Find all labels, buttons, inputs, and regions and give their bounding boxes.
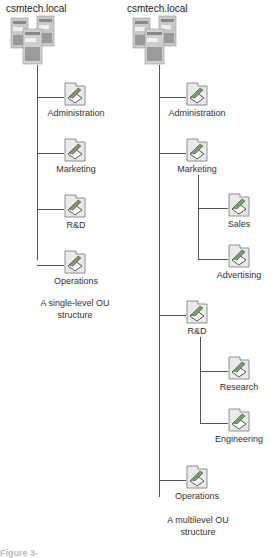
ou-folder-icon [64,138,86,162]
ou-label-operations: Operations [45,276,107,286]
server-icon [132,15,178,65]
caption-line: structure [20,309,130,321]
ou-folder-icon [186,300,208,324]
caption-multilevel: A multilevel OU structure [150,514,246,538]
ou-label-administration: Administration [45,108,107,118]
ou-folder-icon [186,465,208,489]
tree-connector [159,97,186,98]
ou-label-marketing: Marketing [166,164,228,174]
tree-connector [159,315,186,316]
ou-label-rd: R&D [166,326,228,336]
tree-connector [200,423,228,424]
ou-folder-icon [228,244,250,268]
tree-connector [198,175,199,259]
ou-label-marketing: Marketing [45,164,107,174]
ou-folder-icon [186,82,208,106]
tree-connector [198,259,228,260]
ou-label-advertising: Advertising [210,270,268,280]
ou-folder-icon [228,356,250,380]
ou-label-administration: Administration [166,108,228,118]
tree-connector [37,209,64,210]
tree-connector [198,208,228,209]
caption-line: structure [150,526,246,538]
server-icon [10,15,56,65]
tree-connector [200,371,228,372]
ou-label-rd: R&D [45,220,107,230]
caption-line: A single-level OU [20,297,130,309]
ou-folder-icon [228,193,250,217]
ou-folder-icon [186,138,208,162]
ou-label-sales: Sales [210,219,268,229]
ou-label-research: Research [210,382,268,392]
ou-folder-icon [64,194,86,218]
tree-connector [159,480,186,481]
ou-folder-icon [64,82,86,106]
tree-connector [200,337,201,423]
ou-label-engineering: Engineering [210,434,268,444]
tree-connector [37,65,38,260]
caption-line: A multilevel OU [150,514,246,526]
tree-connector [37,153,64,154]
ou-folder-icon [228,408,250,432]
tree-connector [37,97,64,98]
tree-connector [159,153,186,154]
domain-label: csmtech.local [6,3,67,14]
domain-label: csmtech.local [127,3,188,14]
ou-folder-icon [64,250,86,274]
tree-connector [159,65,160,497]
tree-connector [37,265,64,266]
figure-caption-fragment: Figure 3- [0,548,38,558]
ou-label-operations: Operations [166,491,228,501]
caption-single-level: A single-level OU structure [20,297,130,321]
